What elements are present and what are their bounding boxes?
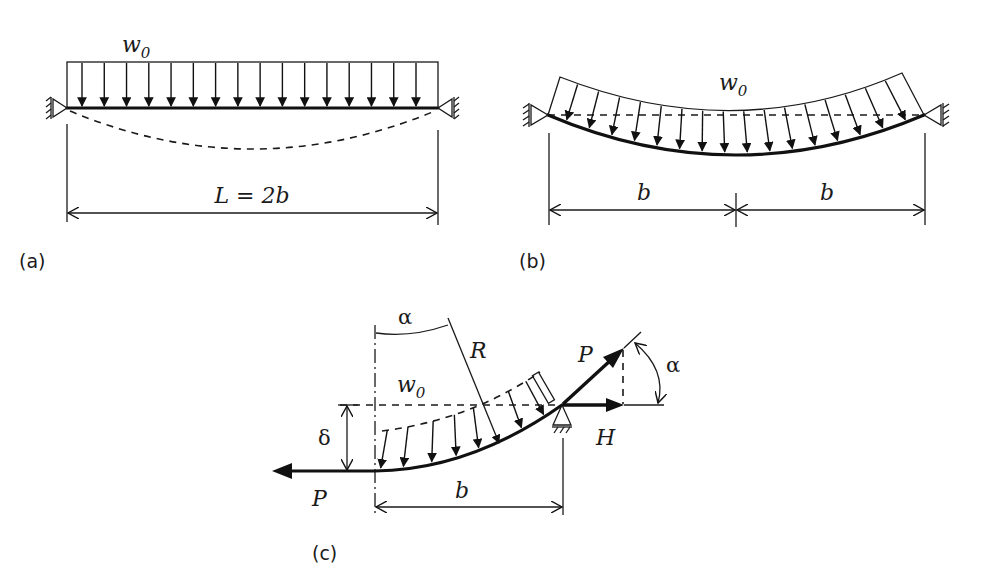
deflection-label-c: δ: [318, 426, 331, 450]
load-arrow: [473, 408, 478, 448]
pin-support-left-b: [523, 103, 548, 127]
pin-support-right-a: [438, 97, 459, 119]
load-arrow: [785, 108, 793, 149]
panel-c: α R w0 P δ: [272, 305, 680, 564]
pin-support-right-b: [924, 103, 949, 127]
load-arrow: [403, 427, 408, 466]
load-arrow: [657, 106, 661, 145]
load-arrow: [508, 391, 521, 427]
load-arrow: [432, 421, 433, 462]
angle-label-right-c: α: [666, 353, 680, 377]
panel-label-a: (a): [19, 250, 45, 272]
dimension-label-c: b: [455, 478, 469, 503]
deflected-shape-a: [70, 111, 435, 149]
load-arrow: [744, 111, 748, 152]
panel-label-c: (c): [312, 542, 337, 564]
pin-support-left-a: [46, 97, 67, 119]
load-label-b: w0: [719, 70, 748, 100]
load-arrow: [634, 102, 640, 140]
load-arrow: [865, 88, 882, 127]
angle-label-top-c: α: [398, 305, 412, 329]
beam-b: [548, 115, 924, 155]
force-arrowhead-left-c: [272, 463, 292, 479]
dimension-label-right-b: b: [820, 180, 834, 205]
load-label-a: w0: [122, 32, 151, 62]
load-arrow: [805, 104, 815, 145]
load-arrow: [825, 100, 837, 140]
load-arrows-a: [82, 63, 416, 106]
force-arrowhead-h-c: [606, 398, 624, 412]
force-label-h-c: H: [595, 425, 616, 450]
force-label-left-c: P: [311, 486, 328, 511]
dimension-label-a: L = 2b: [213, 183, 289, 208]
load-arrow: [723, 111, 724, 151]
angle-arc-right-c: [635, 343, 660, 403]
load-arrow: [381, 430, 388, 468]
load-arrow: [454, 415, 456, 456]
load-label-c: w0: [397, 372, 426, 402]
panel-label-b: (b): [519, 250, 546, 272]
radius-label-c: R: [469, 338, 487, 363]
load-arrow: [764, 110, 770, 151]
load-arrow: [526, 381, 544, 414]
load-arrow: [612, 97, 620, 134]
beam-deflection-figure: w0 L = 2b (a): [0, 0, 989, 587]
load-arrow: [885, 81, 905, 120]
dimension-label-left-b: b: [637, 180, 651, 205]
force-label-inclined-c: P: [577, 342, 594, 367]
radius-line-c: [448, 318, 499, 443]
panel-b: w0 b b (b): [519, 70, 949, 272]
panel-a: w0 L = 2b (a): [19, 32, 459, 272]
uniform-load-block-a: [67, 62, 438, 108]
load-arrow: [589, 91, 598, 127]
